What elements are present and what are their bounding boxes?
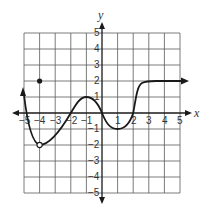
x-axis-left-arrow-icon <box>12 110 19 116</box>
y-tick-label: −4 <box>88 171 100 182</box>
y-tick-label: −3 <box>88 155 100 166</box>
x-axis-label: x <box>193 106 200 120</box>
y-tick-label: 2 <box>94 75 100 86</box>
x-tick-label: 3 <box>146 115 152 126</box>
closed-point <box>37 78 42 83</box>
open-point <box>37 142 42 147</box>
y-axis-up-arrow-icon <box>99 22 105 29</box>
y-tick-label: 3 <box>94 59 100 70</box>
y-tick-label: 5 <box>94 27 100 38</box>
curve-right-arrow-icon <box>181 78 189 85</box>
y-axis-down-arrow-icon <box>99 197 105 204</box>
x-tick-label: 5 <box>177 115 183 126</box>
y-axis-label: y <box>97 8 104 22</box>
x-tick-labels: −5 −4 −3 −2 −1 1 2 3 4 5 <box>19 115 183 126</box>
y-tick-label: −1 <box>88 123 100 134</box>
x-tick-label: −3 <box>50 115 62 126</box>
function-graph: x y −5 −4 −3 −2 −1 1 2 3 4 5 5 4 3 2 1 −… <box>0 0 210 218</box>
x-axis-right-arrow-icon <box>185 110 192 116</box>
y-tick-label: −2 <box>88 139 100 150</box>
x-tick-label: −4 <box>34 115 46 126</box>
x-tick-label: 1 <box>115 115 121 126</box>
y-tick-label: −5 <box>88 187 100 198</box>
curve-left-arrow-icon <box>20 87 26 96</box>
y-tick-label: 4 <box>94 43 100 54</box>
x-tick-label: 4 <box>162 115 168 126</box>
